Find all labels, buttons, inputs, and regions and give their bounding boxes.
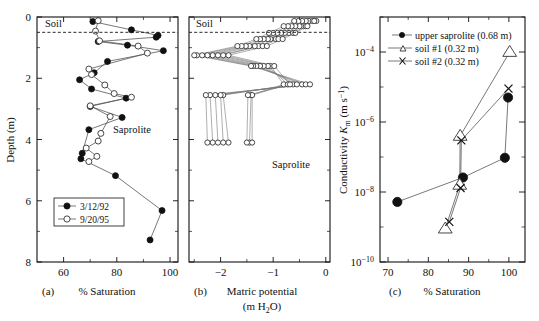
- open-circle-marker: [213, 92, 218, 97]
- panel-a: 6080100 02468 Soil Saprolite % Saturatio…: [4, 11, 179, 298]
- open-circle-marker: [250, 140, 255, 145]
- panel-a-y-axis-title: Depth (m): [4, 117, 17, 163]
- open-circle-marker: [252, 43, 257, 48]
- tick-label: 90: [463, 266, 475, 278]
- panel-b: −2−10 Soil Saprolite Matric potential (m…: [189, 17, 330, 315]
- filled-circle-marker: [500, 153, 509, 162]
- filled-circle-marker: [119, 114, 125, 120]
- open-triangle-marker: [503, 45, 517, 56]
- panel-c-legend[interactable]: upper saprolite (0.68 m) soil #1 (0.32 m…: [388, 30, 512, 68]
- panel-c-y-title-close: ): [337, 86, 350, 90]
- open-circle-marker: [218, 92, 223, 97]
- panel-b-units-suffix: O): [270, 300, 282, 313]
- open-circle-marker: [94, 153, 100, 159]
- panel-c-legend-label-3: soil #2 (0.32 m): [415, 56, 479, 68]
- open-circle-marker: [86, 66, 92, 72]
- open-circle-marker: [97, 38, 103, 44]
- panel-b-profile-markers: [192, 18, 319, 145]
- open-circle-marker: [305, 24, 310, 29]
- panel-a-x-axis-title: % Saturation: [78, 285, 136, 297]
- open-circle-marker: [93, 28, 99, 34]
- open-circle-marker: [221, 140, 226, 145]
- open-circle-marker: [111, 91, 117, 97]
- open-circle-marker: [192, 53, 197, 58]
- open-circle-marker: [203, 92, 208, 97]
- open-circle-marker: [287, 82, 292, 87]
- panel-a-legend[interactable]: 3/12/92 9/20/95: [54, 198, 124, 226]
- tick-label: 100: [501, 266, 518, 278]
- panel-b-soil-label: Soil: [196, 18, 213, 29]
- filled-circle-marker: [159, 208, 165, 214]
- tick-label: 4: [26, 134, 32, 146]
- panel-c-series-3-line: [449, 89, 508, 222]
- tick-label: 2: [26, 72, 32, 84]
- panel-c-legend-label-1: upper saprolite (0.68 m): [415, 30, 512, 42]
- open-circle-marker: [200, 53, 205, 58]
- tick-label: 80: [423, 266, 435, 278]
- tick-label: 80: [111, 266, 123, 278]
- open-circle-marker: [210, 140, 215, 145]
- panel-c-legend-entry-2[interactable]: soil #1 (0.32 m): [388, 43, 479, 55]
- panel-c-legend-entry-3[interactable]: soil #2 (0.32 m): [388, 56, 479, 68]
- open-circle-marker: [89, 72, 95, 78]
- filled-circle-marker: [79, 150, 85, 156]
- open-circle-marker: [294, 82, 299, 87]
- open-circle-marker: [102, 82, 108, 88]
- filled-circle-marker: [153, 34, 159, 40]
- panel-c-y-title-units: (m s: [337, 98, 350, 120]
- panel-c-x-axis-title: % Saturation: [423, 285, 481, 297]
- open-circle-marker: [272, 63, 277, 68]
- panel-b-units-prefix: (m H: [243, 300, 266, 313]
- filled-circle-marker: [147, 237, 153, 243]
- filled-circle-marker: [78, 156, 84, 162]
- open-circle-marker: [95, 18, 101, 24]
- open-circle-marker: [221, 53, 226, 58]
- tick-label: 8: [26, 256, 32, 268]
- panel-c-letter: (c): [389, 285, 402, 298]
- open-circle-marker: [98, 130, 104, 136]
- open-circle-marker: [144, 50, 150, 56]
- cross-x-marker: [504, 85, 512, 93]
- open-circle-marker: [95, 138, 101, 144]
- tick-label: −1: [267, 266, 279, 278]
- open-circle-marker: [205, 53, 210, 58]
- cross-x-marker: [445, 218, 453, 226]
- panel-c-y-tick-label: 10−6: [354, 115, 374, 128]
- panel-c-y-tick-label: 10−4: [354, 45, 374, 58]
- panel-c-y-axis-title: Conductivity Km (m s−1): [337, 86, 353, 194]
- panel-c-legend-entry-1[interactable]: upper saprolite (0.68 m): [392, 30, 512, 42]
- panel-c-y-title-main: Conductivity: [337, 134, 349, 194]
- open-circle-marker: [87, 103, 93, 109]
- filled-circle-marker: [89, 86, 95, 92]
- three-panel-figure: 6080100 02468 Soil Saprolite % Saturatio…: [0, 0, 539, 321]
- filled-circle-icon: [64, 203, 70, 209]
- open-circle-marker: [245, 92, 250, 97]
- panel-b-x-tick-labels: −2−10: [215, 266, 329, 278]
- filled-circle-marker: [112, 173, 118, 179]
- tick-label: 0: [323, 266, 329, 278]
- open-circle-marker: [128, 94, 134, 100]
- panel-a-legend-label-1: 3/12/92: [80, 202, 109, 212]
- panel-a-x-tick-labels: 6080100: [58, 266, 179, 278]
- filled-circle-marker: [503, 93, 512, 102]
- filled-circle-marker: [160, 48, 166, 54]
- tick-label: −2: [215, 266, 227, 278]
- panel-c-series-1-line: [397, 98, 508, 202]
- panel-a-legend-label-2: 9/20/95: [80, 215, 109, 225]
- open-circle-marker: [293, 30, 298, 35]
- open-circle-marker: [226, 53, 231, 58]
- open-circle-marker: [254, 36, 259, 41]
- open-circle-marker: [264, 43, 269, 48]
- open-circle-marker: [244, 140, 249, 145]
- panel-a-letter: (a): [42, 285, 55, 298]
- panel-c-y-tick-label: 10−10: [350, 255, 374, 268]
- filled-circle-marker: [77, 77, 83, 83]
- open-triangle-marker: [438, 222, 452, 233]
- panel-c-legend-label-2: soil #1 (0.32 m): [415, 43, 479, 55]
- panel-c-x-tick-labels: 708090100: [383, 266, 518, 278]
- panel-c: 708090100 10−410−610−810−10 % Saturation…: [337, 17, 526, 298]
- tick-label: 100: [162, 266, 179, 278]
- open-circle-marker: [205, 140, 210, 145]
- filled-circle-icon: [399, 32, 404, 37]
- tick-label: 0: [26, 11, 32, 23]
